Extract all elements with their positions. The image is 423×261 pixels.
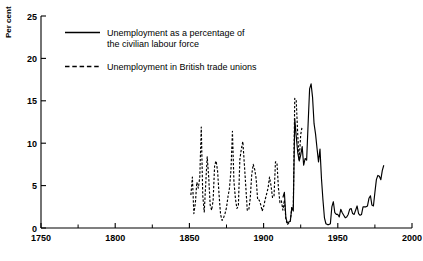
y-tick-label-5: 5 — [32, 181, 37, 191]
x-tick-label-1850: 1850 — [179, 233, 199, 243]
y-tick-label-20: 20 — [27, 54, 37, 64]
unemployment-chart: Per cent 0510152025 17501800185019001950… — [0, 0, 423, 261]
y-axis-title-group: Per cent — [4, 6, 13, 38]
y-tick-label-0: 0 — [32, 224, 37, 234]
y-tick-label-15: 15 — [27, 96, 37, 106]
x-tick-label-1800: 1800 — [105, 233, 125, 243]
chart-legend: Unemployment as a percentage ofthe civil… — [65, 28, 257, 72]
data-series-layer — [191, 84, 384, 225]
x-axis: 175018001850190019502000 — [31, 223, 422, 243]
legend-label-civilian-labour-force: Unemployment as a percentage of — [107, 28, 245, 38]
legend-label-civilian-labour-force-line2: the civilian labour force — [107, 39, 199, 49]
y-tick-label-25: 25 — [27, 12, 37, 22]
legend-label-trade-unions: Unemployment in British trade unions — [107, 62, 257, 72]
series-line-civilian-labour-force — [283, 84, 384, 225]
x-tick-label-2000: 2000 — [402, 233, 422, 243]
x-tick-label-1950: 1950 — [328, 233, 348, 243]
y-tick-label-10: 10 — [27, 139, 37, 149]
chart-canvas: Per cent 0510152025 17501800185019001950… — [0, 0, 423, 261]
x-tick-label-1750: 1750 — [31, 233, 51, 243]
x-tick-label-1900: 1900 — [254, 233, 274, 243]
y-axis: 0510152025 — [27, 12, 46, 234]
y-axis-title: Per cent — [4, 6, 13, 38]
